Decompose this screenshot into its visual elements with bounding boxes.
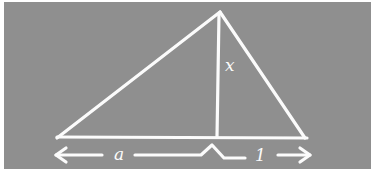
triangle-diagram: x a 1: [0, 0, 374, 172]
right-side: [220, 12, 305, 138]
altitude-line: [217, 14, 219, 137]
right-segment-label: 1: [255, 145, 266, 165]
altitude-label: x: [225, 55, 235, 75]
left-segment-label: a: [114, 144, 124, 164]
left-side: [57, 12, 220, 138]
base: [57, 137, 307, 138]
segment-brace: [135, 145, 245, 158]
